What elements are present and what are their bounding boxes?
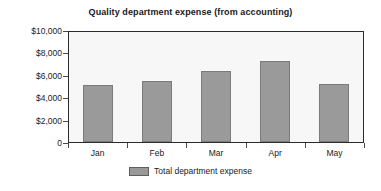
bar-slot (304, 32, 363, 142)
bar-slot (187, 32, 246, 142)
bars-layer (69, 32, 363, 142)
bar-slot (69, 32, 128, 142)
x-tick-label: Mar (186, 148, 245, 162)
y-tick-label: $8,000 (0, 48, 62, 58)
bar-slot (128, 32, 187, 142)
x-tick-label: May (305, 148, 364, 162)
y-tick-label: 0 (0, 138, 62, 148)
y-tick-label: $2,000 (0, 116, 62, 126)
bar[interactable] (83, 85, 113, 142)
y-tick-label: $6,000 (0, 71, 62, 81)
chart-legend: Total department expense (0, 166, 381, 176)
bar[interactable] (260, 61, 290, 142)
x-tick-mark (364, 143, 365, 148)
plot-inner (69, 32, 363, 142)
y-tick-label: $4,000 (0, 93, 62, 103)
bar[interactable] (319, 84, 349, 142)
bar[interactable] (142, 81, 172, 142)
legend-swatch-icon (129, 167, 149, 176)
x-axis-labels: JanFebMarAprMay (68, 148, 364, 162)
plot-area (68, 31, 364, 143)
x-tick-label: Jan (68, 148, 127, 162)
bar-chart: Quality department expense (from account… (0, 0, 381, 191)
bar-slot (245, 32, 304, 142)
x-tick-label: Feb (127, 148, 186, 162)
bar[interactable] (201, 71, 231, 142)
legend-label: Total department expense (154, 166, 252, 176)
y-tick-label: $10,000 (0, 26, 62, 36)
x-tick-label: Apr (246, 148, 305, 162)
y-axis: $10,000$8,000$6,000$4,000$2,0000 (0, 31, 62, 143)
chart-title: Quality department expense (from account… (0, 7, 381, 17)
